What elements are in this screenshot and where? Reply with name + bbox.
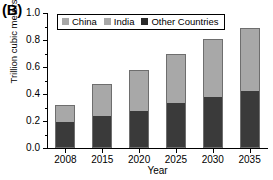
y-tick-minor — [45, 81, 47, 82]
x-axis-line — [47, 148, 268, 149]
y-tick-label: 0.4 — [26, 88, 40, 99]
bar-segment-india — [240, 60, 260, 92]
x-tick — [102, 149, 103, 153]
bar-2020 — [129, 70, 149, 148]
y-tick-minor — [45, 108, 47, 109]
y-tick-label: 0.0 — [26, 142, 40, 153]
x-tick-label: 2025 — [165, 154, 187, 165]
y-tick: 0.4 — [43, 94, 47, 95]
bar-2030 — [203, 39, 223, 148]
x-tick — [176, 149, 177, 153]
legend-label: Other Countries — [151, 17, 218, 27]
x-tick-label: 2020 — [128, 154, 150, 165]
bar-2008 — [55, 105, 75, 148]
bar-segment-china — [203, 39, 223, 68]
y-axis-line — [47, 13, 48, 149]
bar-segment-china — [129, 70, 149, 91]
bar-segment-china — [92, 84, 112, 100]
x-tick — [213, 149, 214, 153]
y-tick: 0.6 — [43, 67, 47, 68]
plot-area: 0.00.20.40.60.81.0 200820152020202520302… — [47, 13, 268, 149]
y-tick: 1.0 — [43, 13, 47, 14]
bar-segment-other-countries — [92, 116, 112, 148]
y-tick-label: 1.0 — [26, 7, 40, 18]
y-tick-minor — [45, 54, 47, 55]
legend-label: India — [114, 17, 135, 27]
legend-item-india: India — [104, 17, 135, 27]
legend-label: China — [72, 17, 97, 27]
x-tick-label: 2015 — [91, 154, 113, 165]
y-tick-label: 0.8 — [26, 34, 40, 45]
y-axis-title: Trillion cubic meters — [8, 0, 19, 102]
x-axis-title: Year — [47, 165, 268, 176]
y-tick-label: 0.2 — [26, 115, 40, 126]
y-tick: 0.2 — [43, 121, 47, 122]
bar-segment-other-countries — [240, 91, 260, 148]
figure-panel-b: (B) Trillion cubic meters 0.00.20.40.60.… — [0, 0, 273, 180]
bar-2025 — [166, 54, 186, 149]
bar-segment-other-countries — [55, 122, 75, 148]
y-tick-minor — [45, 27, 47, 28]
x-tick — [139, 149, 140, 153]
bar-segment-china — [55, 105, 75, 114]
bar-segment-other-countries — [203, 97, 223, 148]
y-tick: 0.0 — [43, 148, 47, 149]
bar-2035 — [240, 28, 260, 148]
x-tick-label: 2030 — [202, 154, 224, 165]
x-tick — [65, 149, 66, 153]
bar-segment-india — [129, 91, 149, 111]
bar-segment-india — [203, 68, 223, 97]
bar-segment-other-countries — [166, 103, 186, 148]
bar-segment-china — [166, 54, 186, 79]
legend-item-china: China — [62, 17, 97, 27]
bar-segment-india — [92, 100, 112, 116]
y-tick-label: 0.6 — [26, 61, 40, 72]
bar-segment-other-countries — [129, 111, 149, 148]
x-tick-label: 2035 — [238, 154, 260, 165]
legend-swatch-icon — [62, 18, 69, 25]
chart-legend: ChinaIndiaOther Countries — [57, 14, 225, 30]
bar-segment-china — [240, 28, 260, 60]
legend-swatch-icon — [104, 18, 111, 25]
bar-segment-india — [55, 114, 75, 122]
y-tick-minor — [45, 135, 47, 136]
x-tick-label: 2008 — [54, 154, 76, 165]
y-tick: 0.8 — [43, 40, 47, 41]
x-tick — [250, 149, 251, 153]
legend-swatch-icon — [141, 18, 148, 25]
legend-item-other-countries: Other Countries — [141, 17, 218, 27]
bar-segment-india — [166, 78, 186, 103]
bar-2015 — [92, 84, 112, 148]
